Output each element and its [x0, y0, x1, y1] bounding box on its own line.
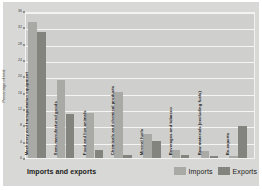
bar-exports — [210, 156, 219, 158]
y-tick-label: 28 — [18, 43, 22, 46]
bar-imports — [114, 92, 123, 158]
category-label: Beverages and tobacco — [169, 107, 173, 155]
legend: Imports Exports — [174, 167, 257, 175]
bar-exports — [181, 155, 190, 158]
bar-imports — [172, 150, 181, 158]
category-label: Raw materials (excluding fuels) — [197, 91, 201, 155]
bar-imports — [229, 156, 238, 158]
category-label: Food and live animals — [82, 110, 86, 155]
bar-exports — [95, 150, 104, 158]
bar-exports — [66, 114, 75, 158]
y-tick-label: 0 — [20, 157, 22, 160]
y-tick-label: 16 — [18, 92, 22, 95]
category-label: Semi-manufactured goods — [54, 101, 58, 155]
plot-frame: Machinery and transportation equipmentSe… — [25, 12, 255, 159]
plot-area: Machinery and transportation equipmentSe… — [26, 13, 254, 158]
legend-label-exports: Exports — [233, 168, 257, 175]
bar-group: Semi-manufactured goods — [55, 13, 84, 158]
y-tick-label: 12 — [18, 108, 22, 111]
y-tick-label: 36 — [18, 10, 22, 13]
legend-entry-imports: Imports — [174, 167, 213, 175]
bar-exports — [123, 155, 132, 158]
bar-group: Food and live animals — [84, 13, 113, 158]
y-axis: Percentage of total 04812162024283236 — [3, 12, 25, 159]
bar-imports — [28, 22, 37, 158]
bar-exports — [37, 32, 46, 158]
bar-imports — [143, 134, 152, 159]
chart-title: Imports and exports — [27, 168, 96, 175]
bar-group: Re-exports — [227, 13, 256, 158]
exports-swatch-icon — [218, 167, 230, 175]
bar-group: Mineral fuels — [141, 13, 170, 158]
legend-label-imports: Imports — [189, 168, 213, 175]
y-tick-label: 24 — [18, 59, 22, 62]
chart-footer: Imports and exports Imports Exports — [25, 164, 257, 184]
bar-imports — [57, 80, 66, 158]
y-tick-label: 20 — [18, 76, 22, 79]
bar-group: Chemicals and chemical products — [112, 13, 141, 158]
category-label: Machinery and transportation equipment — [25, 72, 29, 155]
y-tick-label: 8 — [20, 125, 22, 128]
imports-swatch-icon — [174, 167, 186, 175]
bar-group: Machinery and transportation equipment — [26, 13, 55, 158]
y-tick-label: 4 — [20, 141, 22, 144]
category-label: Chemicals and chemical products — [111, 86, 115, 155]
category-label: Mineral fuels — [140, 129, 144, 155]
legend-entry-exports: Exports — [218, 167, 257, 175]
chart-figure: Percentage of total 04812162024283236 Ma… — [0, 0, 262, 190]
y-tick-label: 32 — [18, 27, 22, 30]
bar-exports — [238, 126, 247, 158]
y-axis-title: Percentage of total — [3, 69, 7, 102]
bar-exports — [152, 141, 161, 158]
bar-group: Raw materials (excluding fuels) — [199, 13, 228, 158]
bar-group: Beverages and tobacco — [170, 13, 199, 158]
category-label: Re-exports — [226, 133, 230, 155]
figure-panel: Percentage of total 04812162024283236 Ma… — [3, 2, 259, 186]
